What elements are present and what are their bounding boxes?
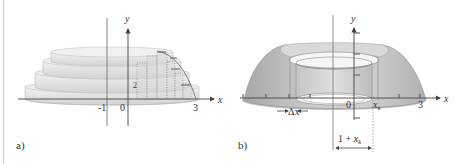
tick-label-0: 0 xyxy=(120,102,125,113)
x-axis-label: x xyxy=(217,94,223,105)
tick-label-3: 3 xyxy=(193,102,198,113)
shell-solid xyxy=(242,43,426,110)
tick-label-0: 0 xyxy=(346,99,351,110)
y-axis-label: y xyxy=(124,13,130,24)
figure-canvas: 2 y x -1 0 3 a) xyxy=(0,0,460,164)
panel-a: 2 y x -1 0 3 a) xyxy=(16,13,223,152)
tick-label-neg1: -1 xyxy=(98,102,106,113)
annotation-label: 2 xyxy=(133,81,137,90)
radius-label: 1 + xk xyxy=(338,133,362,146)
panel-a-label: a) xyxy=(16,139,25,152)
tick-label-3: 3 xyxy=(418,99,423,110)
panel-b: y x 0 xk 3 Δx 1 + xk b) xyxy=(238,13,449,152)
delta-x-label: Δx xyxy=(288,106,299,117)
panel-b-label: b) xyxy=(238,139,248,152)
y-axis-label: y xyxy=(350,13,356,24)
x-axis-label: x xyxy=(443,93,449,104)
